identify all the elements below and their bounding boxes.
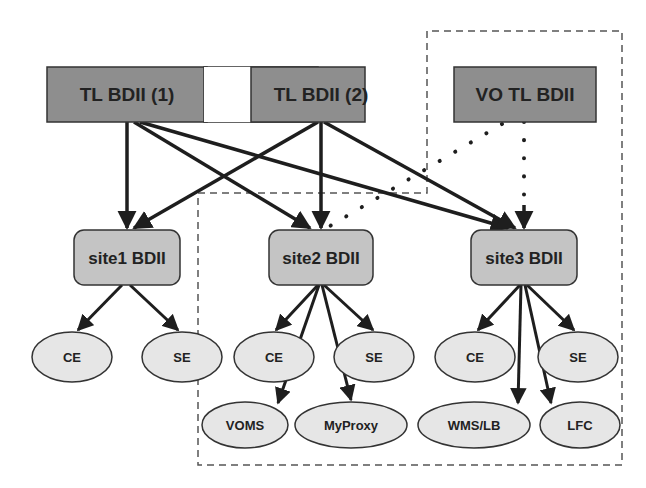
node-tl-bdii-2-main: TL BDII (2)	[204, 67, 368, 122]
service-site3-ce: CE	[435, 332, 515, 382]
svg-text:LFC: LFC	[567, 418, 593, 433]
svg-text:VOMS: VOMS	[226, 418, 265, 433]
service-site3-se: SE	[538, 332, 618, 382]
svg-text:SE: SE	[173, 350, 191, 365]
node-site2-bdii: site2 BDII	[269, 230, 373, 285]
svg-text:MyProxy: MyProxy	[324, 418, 379, 433]
service-site2-se: SE	[334, 332, 414, 382]
node-site1-bdii: site1 BDII	[74, 230, 180, 285]
svg-text:SE: SE	[365, 350, 383, 365]
service-site1-se: SE	[142, 332, 222, 382]
service-site3-lfc: LFC	[540, 402, 620, 448]
node-label: site3 BDII	[485, 249, 562, 268]
svg-text:CE: CE	[265, 350, 283, 365]
node-vo-tl-bdii: VO TL BDII	[454, 67, 596, 122]
node-tl-bdii-1: TL BDII (1)	[47, 67, 207, 122]
service-site1-ce: CE	[32, 332, 112, 382]
node-label: site1 BDII	[88, 249, 165, 268]
bdii-hierarchy-diagram: TL BDII (1) TL BDII (2) VO TL BDII site1…	[0, 0, 646, 488]
service-site2-voms: VOMS	[202, 402, 288, 448]
svg-text:CE: CE	[466, 350, 484, 365]
node-label: site2 BDII	[282, 249, 359, 268]
service-site2-ce: CE	[234, 332, 314, 382]
node-label: VO TL BDII	[476, 84, 575, 105]
node-label: TL BDII (1)	[80, 84, 175, 105]
svg-text:CE: CE	[63, 350, 81, 365]
node-site3-bdii: site3 BDII	[471, 230, 577, 285]
service-site3-wms-lb: WMS/LB	[418, 402, 530, 448]
svg-text:SE: SE	[569, 350, 587, 365]
service-site2-myproxy: MyProxy	[295, 402, 407, 448]
node-label: TL BDII (2)	[274, 84, 369, 105]
svg-text:WMS/LB: WMS/LB	[448, 418, 501, 433]
edges-tl1	[127, 122, 508, 228]
edges-vo	[330, 122, 524, 226]
